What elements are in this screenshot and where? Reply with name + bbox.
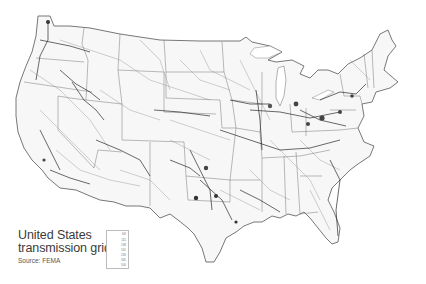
legend-entry: 115 (121, 238, 126, 242)
legend-entry: 345 (121, 258, 126, 262)
legend-entry: 500 (121, 263, 126, 267)
legend-entry: 230 (121, 253, 126, 257)
map-title: United States transmission grid (18, 229, 111, 255)
legend-entry: 161 (121, 248, 126, 252)
legend-unit: kV (122, 232, 126, 236)
lake-superior (250, 46, 282, 58)
us-outline (16, 16, 398, 262)
map-title-line2: transmission grid (18, 242, 111, 255)
source-credit: Source: FEMA (18, 257, 60, 264)
voltage-legend: kV 115 138 161 230 345 500 (106, 230, 129, 269)
legend-entry: 138 (121, 243, 126, 247)
